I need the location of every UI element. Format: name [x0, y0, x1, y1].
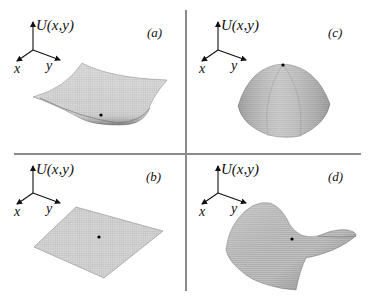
u-axis-label-c: U(x,y) — [221, 17, 259, 34]
x-axis-d — [202, 193, 218, 204]
figure-canvas: U(x,y) x y (a) U(x,y) x y (c) — [0, 0, 369, 299]
maximum-point — [281, 63, 284, 66]
plane-point — [97, 235, 100, 238]
y-axis-label-b: y — [44, 201, 53, 216]
x-axis-label-d: x — [198, 204, 206, 219]
u-axis-label-d: U(x,y) — [221, 161, 259, 178]
x-axis-b — [17, 193, 33, 204]
minimum-point — [99, 113, 102, 116]
x-axis-label-c: x — [198, 61, 206, 76]
panel-b: U(x,y) x y (b) — [13, 161, 163, 278]
x-axis-c — [202, 50, 218, 61]
x-axis-label-b: x — [13, 204, 21, 219]
dome-surface — [238, 64, 330, 137]
panel-label-b: (b) — [146, 169, 161, 184]
panel-label-a: (a) — [147, 25, 162, 40]
panel-c: U(x,y) x y (c) — [198, 17, 342, 137]
axes-triad-a: U(x,y) x y — [13, 17, 74, 76]
panel-label-d: (d) — [328, 169, 343, 184]
panel-a: U(x,y) x y (a) — [13, 17, 167, 125]
axes-triad-c: U(x,y) x y — [198, 17, 259, 76]
saddle-point — [290, 237, 293, 240]
y-axis-label-a: y — [44, 58, 53, 73]
y-axis-label-d: y — [229, 201, 238, 216]
u-axis-label-b: U(x,y) — [36, 161, 74, 178]
saddle-surface — [226, 203, 356, 290]
y-axis-label-c: y — [229, 58, 238, 73]
plane-surface — [34, 207, 163, 278]
x-axis-label-a: x — [13, 61, 21, 76]
panel-label-c: (c) — [328, 25, 342, 40]
axes-triad-b: U(x,y) x y — [13, 161, 74, 219]
panel-d: U(x,y) x y (d) — [198, 161, 356, 290]
u-axis-label-a: U(x,y) — [36, 17, 74, 34]
x-axis-a — [17, 50, 33, 61]
